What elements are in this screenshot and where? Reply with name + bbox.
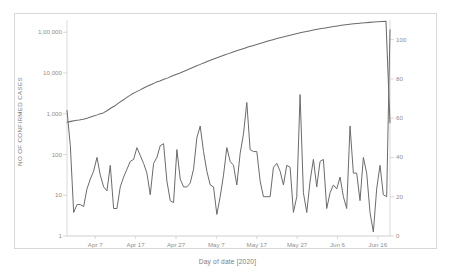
y-left-tick-10: 10 — [12, 191, 62, 198]
y-left-tick-10000: 10,000 — [12, 69, 62, 76]
x-tick-apr-27: Apr 27 — [156, 241, 196, 248]
axis-tick-marks — [63, 32, 394, 239]
y-left-tick-100: 100 — [12, 151, 62, 158]
x-tick-jun-6: Jun 6 — [318, 241, 358, 248]
x-tick-may-17: May 17 — [237, 241, 277, 248]
x-tick-may-27: May 27 — [277, 241, 317, 248]
chart-plot-area — [0, 0, 455, 279]
x-tick-jun-16: Jun 16 — [358, 241, 398, 248]
y-left-tick-100000: 1,00,000 — [12, 28, 62, 35]
y-left-tick-1000: 1,000 — [12, 110, 62, 117]
series-confirmed-cases-line — [67, 21, 390, 123]
y-right-tick-80: 80 — [396, 75, 436, 82]
x-tick-may-7: May 7 — [196, 241, 236, 248]
x-tick-apr-7: Apr 7 — [75, 241, 115, 248]
y-left-tick-1: 1 — [12, 232, 62, 239]
y-right-tick-0: 0 — [396, 232, 436, 239]
x-tick-apr-17: Apr 17 — [116, 241, 156, 248]
y-right-tick-20: 20 — [396, 193, 436, 200]
y-axis-left-title: NO OF CONFIRMED CASES — [16, 57, 23, 187]
y-right-tick-100: 100 — [396, 36, 436, 43]
series-depressing-tweets-line — [67, 30, 390, 232]
y-right-tick-60: 60 — [396, 114, 436, 121]
chart-figure: NO OF CONFIRMED CASES NO OF DEPRESSING T… — [0, 0, 455, 279]
y-right-tick-40: 40 — [396, 153, 436, 160]
x-axis-title: Day of date [2020] — [0, 258, 455, 265]
